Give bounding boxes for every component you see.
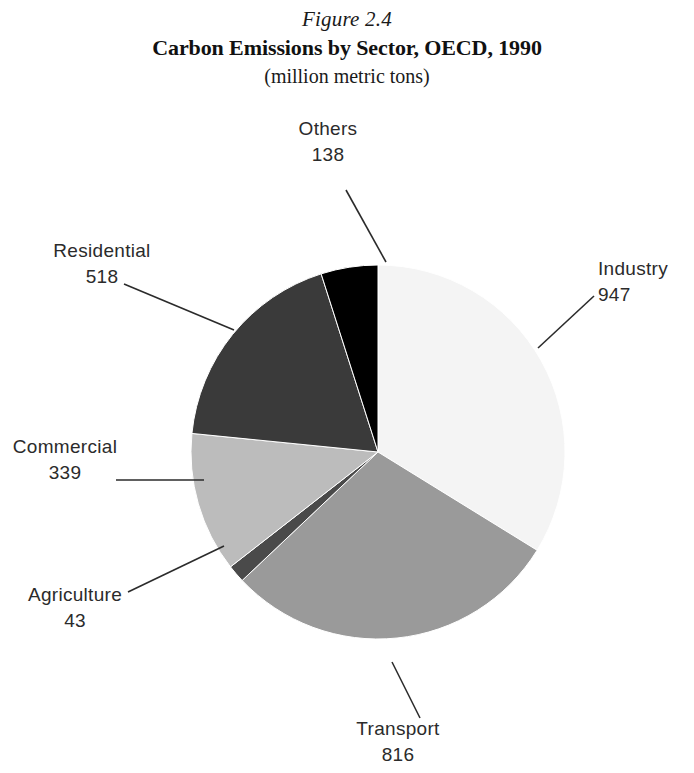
- pie-label-transport-value: 816: [318, 742, 478, 768]
- leader-line-industry: [538, 296, 594, 348]
- leader-line-agriculture: [128, 546, 224, 592]
- leader-line-transport: [392, 662, 420, 718]
- pie-label-agriculture-name: Agriculture: [10, 582, 140, 608]
- pie-label-industry-value: 947: [598, 282, 690, 308]
- pie-label-residential-value: 518: [22, 264, 182, 290]
- pie-label-industry-name: Industry: [598, 256, 690, 282]
- pie-label-commercial-name: Commercial: [0, 434, 130, 460]
- pie-label-industry: Industry 947: [598, 256, 690, 308]
- leader-line-residential: [124, 284, 234, 330]
- pie-chart: Others 138 Industry 947 Residential 518 …: [0, 0, 694, 773]
- pie-label-commercial-value: 339: [0, 460, 130, 486]
- pie-label-agriculture: Agriculture 43: [10, 582, 140, 634]
- pie-label-residential-name: Residential: [22, 238, 182, 264]
- pie-label-transport: Transport 816: [318, 716, 478, 768]
- leader-line-others: [346, 190, 386, 262]
- pie-label-others-name: Others: [248, 116, 408, 142]
- pie-label-others: Others 138: [248, 116, 408, 168]
- pie-slice-group: [191, 265, 565, 639]
- pie-label-agriculture-value: 43: [10, 608, 140, 634]
- pie-label-transport-name: Transport: [318, 716, 478, 742]
- pie-label-commercial: Commercial 339: [0, 434, 130, 486]
- pie-label-others-value: 138: [248, 142, 408, 168]
- pie-label-residential: Residential 518: [22, 238, 182, 290]
